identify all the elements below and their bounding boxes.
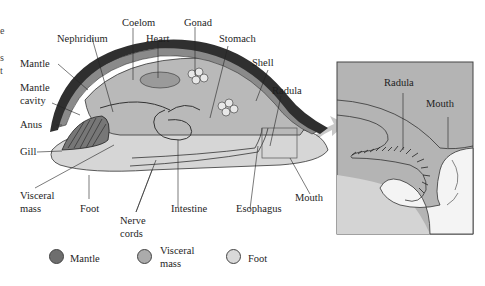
label-anus: Anus bbox=[20, 119, 42, 130]
legend-label-visceral-mass-2: mass bbox=[160, 258, 181, 269]
legend-swatch-foot bbox=[226, 249, 241, 264]
label-heart: Heart bbox=[146, 33, 169, 44]
label-nerve-cords: Nerve bbox=[120, 215, 146, 226]
cropped-text-fragment: s bbox=[0, 52, 4, 63]
legend-swatch-mantle bbox=[49, 249, 64, 264]
legend-swatch-visceral-mass bbox=[137, 249, 152, 264]
label-mantle: Mantle bbox=[20, 58, 50, 69]
cropped-text-fragment: t bbox=[0, 65, 3, 76]
label-nerve-cords-2: cords bbox=[120, 228, 143, 239]
label-foot: Foot bbox=[80, 203, 99, 214]
cropped-text-fragment: e bbox=[0, 25, 4, 36]
label-gill: Gill bbox=[20, 146, 36, 157]
label-esophagus: Esophagus bbox=[236, 203, 282, 214]
legend-label-visceral-mass: Visceral bbox=[160, 245, 194, 256]
label-intestine: Intestine bbox=[171, 203, 207, 214]
label-visceral-mass: Visceral bbox=[20, 190, 54, 201]
label-nephridium: Nephridium bbox=[57, 33, 108, 44]
label-shell: Shell bbox=[252, 57, 274, 68]
legend-label-mantle: Mantle bbox=[70, 253, 100, 264]
inset-label-mouth: Mouth bbox=[426, 98, 454, 109]
label-stomach: Stomach bbox=[219, 33, 256, 44]
label-coelom: Coelom bbox=[122, 17, 155, 28]
label-mantle-cavity: Mantle bbox=[20, 82, 50, 93]
label-mouth: Mouth bbox=[295, 192, 323, 203]
heart-shape bbox=[140, 72, 180, 88]
label-mantle-cavity-2: cavity bbox=[20, 95, 46, 106]
label-gonad: Gonad bbox=[184, 17, 212, 28]
legend-label-foot: Foot bbox=[248, 253, 267, 264]
label-radula: Radula bbox=[272, 85, 302, 96]
label-visceral-mass-2: mass bbox=[20, 203, 41, 214]
inset-label-radula: Radula bbox=[384, 77, 414, 88]
